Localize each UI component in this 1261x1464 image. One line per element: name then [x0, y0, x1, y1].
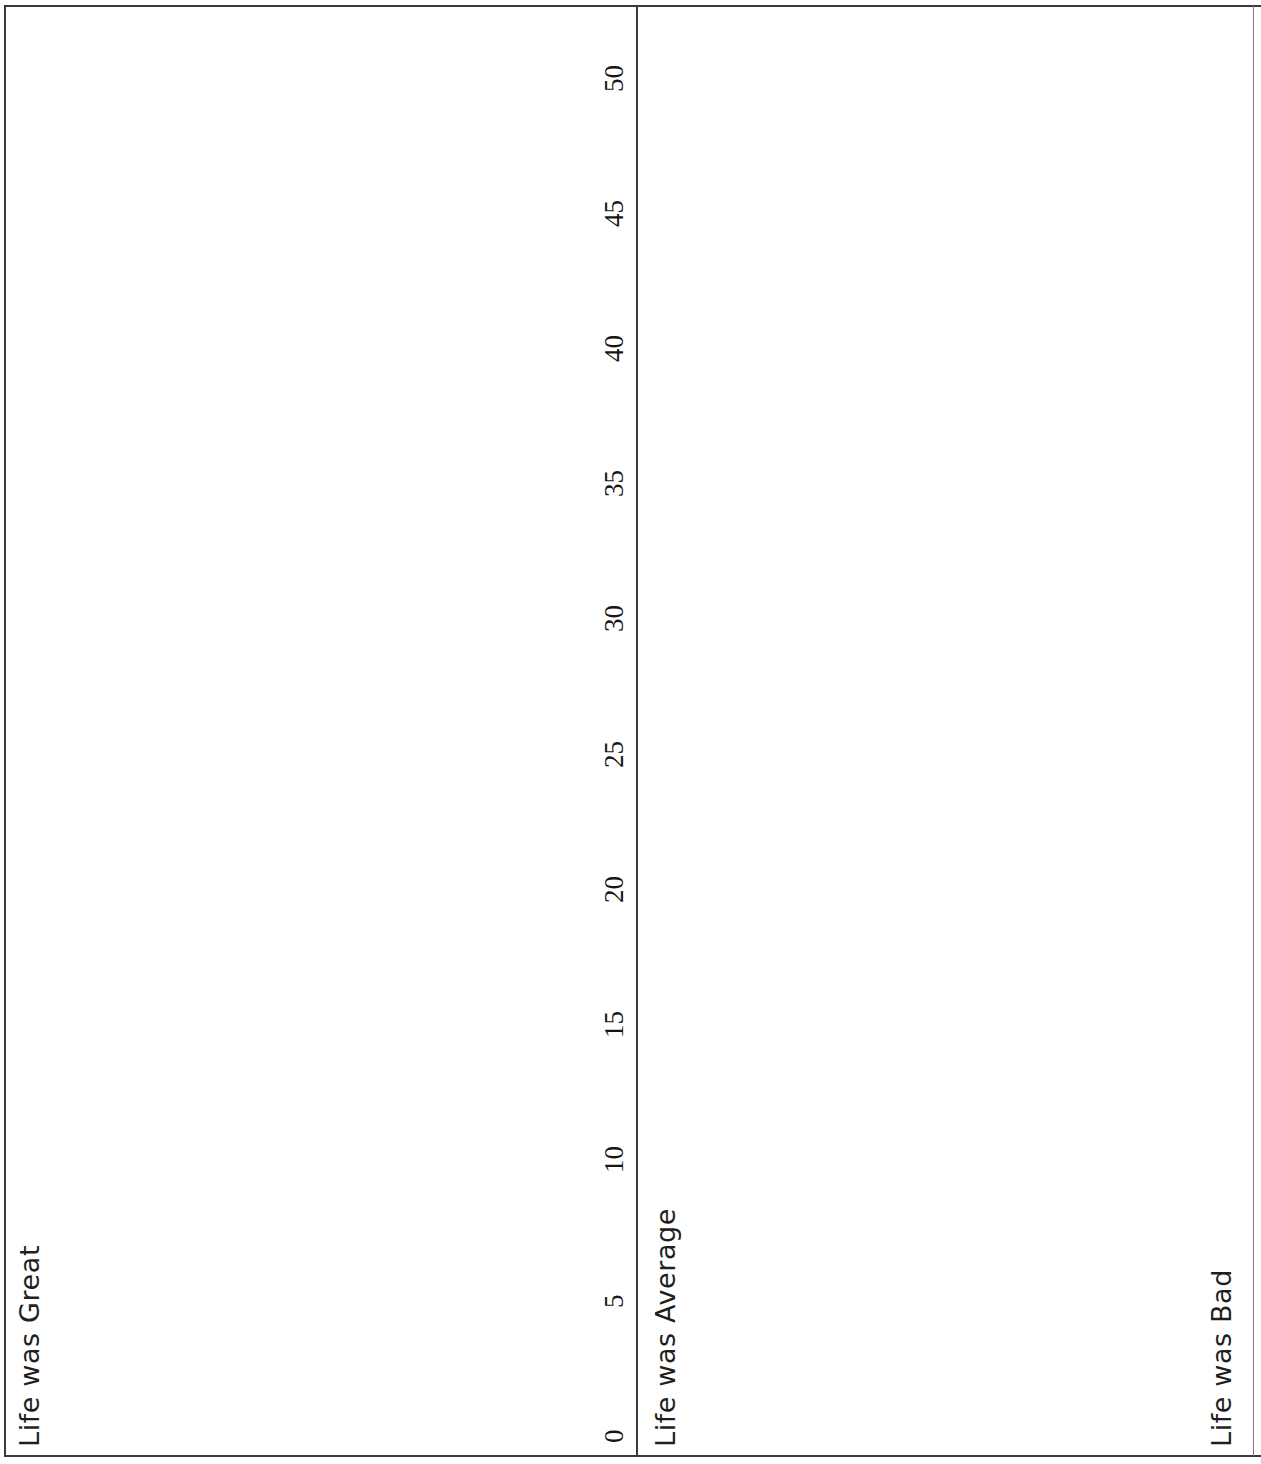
- axis-tick-25: 25: [601, 741, 628, 768]
- axis-tick-50: 50: [601, 65, 628, 92]
- page-border-top: [4, 5, 1261, 7]
- panel-label-life-was-great: Life was Great: [16, 1245, 43, 1447]
- axis-tick-10: 10: [601, 1146, 628, 1173]
- page-border-left: [4, 5, 6, 1457]
- axis-tick-35: 35: [601, 470, 628, 497]
- panel-separator-great-average: [636, 5, 638, 1457]
- axis-tick-0: 0: [601, 1430, 628, 1444]
- page-border-bottom: [4, 1455, 1261, 1457]
- axis-tick-30: 30: [601, 605, 628, 632]
- panel-label-life-was-average: Life was Average: [652, 1208, 679, 1447]
- scanned-chart-page: Life was Great Life was Average Life was…: [0, 0, 1261, 1464]
- panel-separator-average-bad: [1253, 6, 1254, 1456]
- axis-tick-5: 5: [601, 1294, 628, 1308]
- axis-tick-45: 45: [601, 200, 628, 227]
- axis-tick-20: 20: [601, 876, 628, 903]
- axis-tick-40: 40: [601, 335, 628, 362]
- axis-tick-15: 15: [601, 1011, 628, 1038]
- panel-label-life-was-bad: Life was Bad: [1208, 1269, 1235, 1447]
